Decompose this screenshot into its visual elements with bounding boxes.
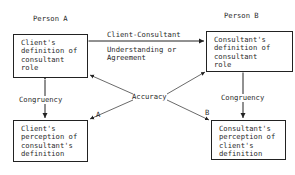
congruency-right-label: Congruency — [221, 94, 264, 102]
client-definition-text: Client's definition of consultant role — [21, 39, 77, 73]
consultant-definition-box: Consultant's definition of consultant ro… — [206, 31, 293, 72]
client-definition-box: Client's definition of consultant role — [13, 34, 88, 78]
client-perception-text: Client's perception of consultant's defi… — [21, 125, 77, 159]
marker-b-label: B — [205, 109, 209, 117]
marker-a-label: A — [96, 111, 100, 119]
consultant-definition-text: Consultant's definition of consultant ro… — [214, 36, 270, 70]
congruency-left-label: Congruency — [19, 96, 62, 104]
consultant-perception-box: Consultant's perception of client's defi… — [211, 120, 286, 160]
person-b-label: Person B — [224, 12, 259, 20]
person-a-label: Person A — [33, 15, 68, 23]
client-perception-box: Client's perception of consultant's defi… — [13, 120, 88, 162]
accuracy-label: Accuracy — [132, 93, 167, 101]
agreement-label-top: Client-Consultant — [107, 31, 181, 39]
consultant-perception-text: Consultant's perception of client's defi… — [219, 125, 275, 159]
agreement-label-bottom: Understanding or Agreement — [107, 46, 176, 62]
